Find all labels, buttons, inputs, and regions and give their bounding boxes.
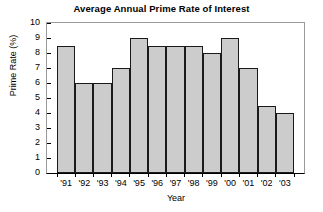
bar [57,46,75,174]
x-tick-mark [111,173,112,177]
bar-chart-figure: Average Annual Prime Rate of Interest Pr… [0,0,323,212]
bar [130,38,148,173]
y-tick-mark [47,128,51,129]
bar [148,46,166,174]
y-tick-mark [47,98,51,99]
bar [112,68,130,173]
y-tick-mark [47,143,51,144]
y-tick-label: 2 [20,137,40,148]
y-tick-label: 10 [20,17,40,28]
y-tick-label: 5 [20,92,40,103]
x-tick-mark [166,173,167,177]
x-tick-mark [202,173,203,177]
x-tick-mark [93,173,94,177]
bar [166,46,184,174]
y-tick-mark [47,68,51,69]
y-tick-mark [47,23,51,24]
y-tick-label: 4 [20,107,40,118]
x-tick-label: '03 [271,178,299,189]
plot-area: 012345678910 '91'92'93'94'95'96'97'98'99… [46,22,305,174]
bar [258,106,276,174]
x-tick-mark [184,173,185,177]
y-tick-label: 6 [20,77,40,88]
y-tick-mark [47,173,51,174]
y-tick-label: 9 [20,32,40,43]
y-axis-label: Prime Rate (%) [8,6,19,126]
chart-title: Average Annual Prime Rate of Interest [0,3,323,15]
bar [221,38,239,173]
x-tick-mark [221,173,222,177]
bar [75,83,93,173]
x-tick-mark [148,173,149,177]
bar [276,113,294,173]
y-tick-mark [47,158,51,159]
y-tick-label: 0 [20,167,40,178]
x-tick-mark [239,173,240,177]
x-tick-mark [57,173,58,177]
x-tick-mark [257,173,258,177]
y-tick-mark [47,53,51,54]
bar [93,83,111,173]
y-tick-label: 1 [20,152,40,163]
y-tick-label: 8 [20,47,40,58]
y-tick-mark [47,38,51,39]
y-tick-label: 3 [20,122,40,133]
x-tick-mark [129,173,130,177]
x-tick-mark [75,173,76,177]
bar [239,68,257,173]
y-tick-label: 7 [20,62,40,73]
bar [185,46,203,174]
y-tick-mark [47,113,51,114]
x-axis-label: Year [46,193,306,204]
x-tick-mark [275,173,276,177]
x-tick-mark [294,173,295,177]
bar [203,53,221,173]
y-tick-mark [47,83,51,84]
